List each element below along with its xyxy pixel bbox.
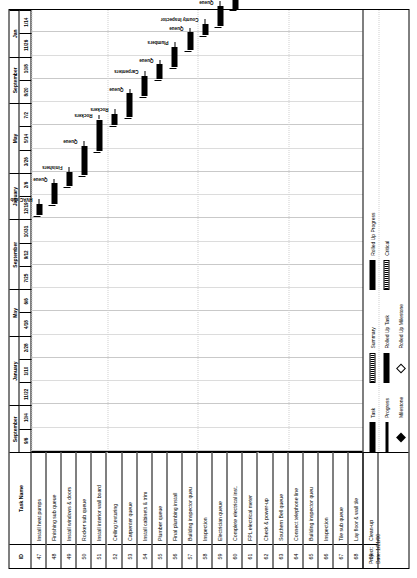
gantt-bar[interactable] [96,120,102,152]
gantt-bar[interactable] [66,172,72,187]
table-row[interactable]: 61FPL electrical meter [242,452,257,568]
table-row[interactable]: 67Tile sub queue [333,452,348,568]
table-row[interactable]: 49Install windows & doors [61,452,76,568]
task-id: 61 [242,544,256,568]
task-id: 65 [303,544,317,568]
timescale-day-tick: 11/26 [19,33,31,56]
legend-label: Rolled Up Task [383,315,389,349]
gantt-bar[interactable] [141,76,147,96]
gantt-bar[interactable] [126,93,132,116]
timescale-day-tick: 8/20 [19,80,31,103]
link-line [199,36,206,37]
legend-column: SummaryRolled Up TaskRolled Up Milestone [367,304,405,383]
legend-label: Task [369,408,375,418]
table-row[interactable]: 66Inspection [318,452,333,568]
project-info: Project: Date: 1/21/00 [363,452,408,568]
gantt-bar-label: Carpenters [113,69,137,74]
task-id: 54 [137,544,151,568]
table-row[interactable]: 53Carpenter queue [122,452,137,568]
link-line [214,27,221,28]
timescale-day-tick: 7/25 [19,266,31,289]
link-line [53,179,54,184]
gantt-bar-label: Rockers [74,113,92,118]
table-row[interactable]: 48Finishing sub queue [46,452,61,568]
task-name: Building inspector queu [303,452,317,544]
table-row[interactable]: 55Plumber queue [152,452,167,568]
page-frame: ID Task Name SeptemberJanuaryMaySeptembe… [8,9,409,569]
table-row[interactable]: 59Electrician queue [212,452,227,568]
task-name: Building inspector queu [182,452,196,544]
legend-label: Milestone [397,397,403,418]
gantt-bar[interactable] [51,184,57,204]
table-row[interactable]: 50Rocker sub queue [76,452,91,568]
timescale: SeptemberJanuaryMaySeptemberJanuaryMaySe… [9,10,31,452]
gantt-bar[interactable] [36,204,42,216]
gantt-row: County Inspector [197,10,212,451]
gantt-bar-label: Queue [139,58,153,63]
table-row[interactable]: 62Check & power-up [258,452,273,568]
task-id: 48 [46,544,60,568]
timescale-month-band: May [9,289,19,336]
column-header-task-name: Task Name [9,452,31,544]
legend-swatch-summ [369,353,376,383]
table-row[interactable]: 63Southern Bell queue [273,452,288,568]
task-name: Check & power-up [258,452,272,544]
legend-label: Summary [369,327,375,348]
gantt-bar-label: Queue [169,26,183,31]
table-row[interactable]: 56Final plumbing install [167,452,182,568]
table-header: ID Task Name SeptemberJanuaryMaySeptembe… [9,10,31,568]
timescale-day-tick: 9/6 [19,429,31,452]
task-id: 50 [76,544,90,568]
task-name: Install cabinets & trim [137,452,151,544]
gantt-bar[interactable] [156,64,162,79]
timescale-month-band: January [9,336,19,406]
table-row[interactable]: 58Inspection [197,452,212,568]
gantt-row: County Inspector [318,10,333,451]
timescale-months: SeptemberJanuaryMaySeptemberJanuaryMaySe… [9,10,19,452]
table-row[interactable]: 54Install cabinets & trim [137,452,152,568]
gantt-bar[interactable] [171,47,177,67]
timescale-day-tick: 2/28 [19,336,31,359]
timescale-day-tick: 3/26 [19,150,31,173]
gantt-bar[interactable] [81,146,87,175]
legend-swatch-rprog [369,260,376,290]
legend-item: Summary [367,304,377,383]
table-row[interactable]: 57Building inspector queu [182,452,197,568]
link-line [144,71,145,76]
gantt-bar[interactable] [187,32,193,49]
gantt-bar[interactable] [217,6,223,26]
gantt-row: Queue [122,10,137,451]
legend-item: Task [367,397,377,452]
table-row[interactable]: 65Building inspector queu [303,452,318,568]
timescale-month-band: Jan [9,10,19,57]
task-name: Ceiling texturing [107,452,121,544]
gantt-bar[interactable] [202,24,208,36]
task-name: FPL electrical meter [242,452,256,544]
gantt-row: Rockers [107,10,122,451]
timescale-month-band: September [9,57,19,104]
gantt-bar[interactable] [111,114,117,126]
legend: Project: Date: 1/21/00 TaskProgressMiles… [362,10,408,568]
gantt-bar-label: Queue [63,139,77,144]
gantt-row: Plumbers [167,10,182,451]
task-id: 51 [91,544,105,568]
gantt-row: Queue [46,10,61,451]
table-row[interactable]: 51Install interior wall board [91,452,106,568]
legend-swatch-task [369,422,376,452]
link-line [154,80,161,81]
table-row[interactable]: 52Ceiling texturing [107,452,122,568]
gantt-bar-label: County Inspector [160,17,198,22]
link-line [68,167,69,172]
table-row[interactable]: 60Complete electrical inst. [227,452,242,568]
table-row[interactable]: 47Install heat pumps [31,452,46,568]
task-name: Electrician queue [212,452,226,544]
legend-label: Critical [383,241,389,256]
gantt-bar-label: Queue [33,177,47,182]
link-line [114,109,115,114]
table-row[interactable]: 68Lay floor & wall tile [348,452,363,568]
rprog-icon [369,260,375,290]
timescale-month-band: May [9,103,19,173]
gantt-bar[interactable] [232,0,238,9]
legend-item: Rolled Up Task [381,304,391,383]
table-row[interactable]: 64Connect telephone line [288,452,303,568]
